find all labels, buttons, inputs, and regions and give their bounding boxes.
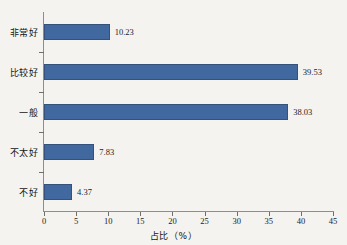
- x-axis-tick-label: 20: [168, 217, 177, 226]
- x-axis-tick-label: 35: [265, 217, 274, 226]
- y-axis-tick-label: 比较好: [10, 52, 39, 92]
- bar-segment: [44, 64, 298, 80]
- bar-segment: [44, 104, 288, 120]
- bar-row: 10.23: [44, 12, 134, 52]
- y-axis-tick-label: 不太好: [10, 132, 39, 172]
- bar-value-label: 38.03: [293, 108, 312, 117]
- bar-row: 38.03: [44, 92, 312, 132]
- y-axis-tick-label: 不好: [19, 172, 38, 212]
- bar-segment: [44, 184, 72, 200]
- y-axis-tick-label: 非常好: [10, 12, 39, 52]
- bar-value-label: 10.23: [115, 28, 134, 37]
- bar-row: 39.53: [44, 52, 322, 92]
- y-axis-tick-label: 一般: [19, 92, 38, 132]
- bar-row: 4.37: [44, 172, 92, 212]
- bar-value-label: 39.53: [303, 68, 322, 77]
- x-axis-tick-label: 5: [74, 217, 78, 226]
- bar-segment: [44, 24, 110, 40]
- bar-chart: 非常好 比较好 一般 不太好 不好 10.23 39.53 38.03 7.83…: [0, 0, 347, 245]
- x-axis-tick-label: 25: [200, 217, 209, 226]
- plot-area: 10.23 39.53 38.03 7.83 4.37: [44, 12, 333, 211]
- x-axis-tick-label: 15: [136, 217, 145, 226]
- x-axis-tick-label: 45: [329, 217, 338, 226]
- bar-value-label: 4.37: [77, 188, 92, 197]
- bar-row: 7.83: [44, 132, 114, 172]
- y-axis-labels: 非常好 比较好 一般 不太好 不好: [0, 12, 41, 211]
- x-axis-tick-label: 10: [104, 217, 113, 226]
- x-axis-tick-label: 0: [42, 217, 46, 226]
- x-axis-tick-label: 40: [297, 217, 306, 226]
- bar-value-label: 7.83: [99, 148, 114, 157]
- x-axis-labels: 051015202530354045: [0, 217, 347, 229]
- x-axis-tick-label: 30: [232, 217, 241, 226]
- bar-segment: [44, 144, 94, 160]
- x-axis-title: 占比（%）: [0, 229, 347, 242]
